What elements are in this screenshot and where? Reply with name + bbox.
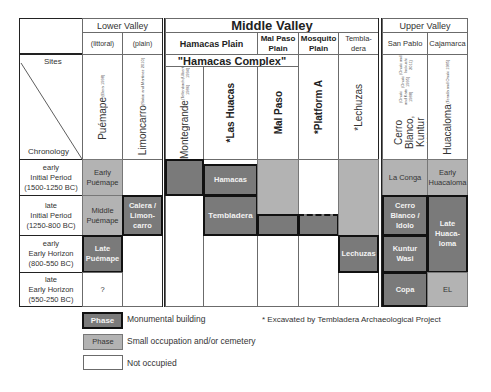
period-range: (800-550 BC) (28, 259, 73, 269)
subregion-hamacas-plain: Hamacas Plain (165, 32, 258, 55)
legend-note-excavated: * Excavated by Tembladera Archaeological… (262, 315, 441, 324)
subregion-plain: (plain) (122, 32, 163, 55)
phase-early-puemape: Early Puémape (82, 159, 123, 196)
legend-swatch-small: Phase (83, 334, 123, 350)
phase-la-conga: La Conga (382, 159, 428, 196)
phase-copa: Copa (382, 272, 428, 307)
sites-chronology-corner: Sites Chronology (19, 54, 83, 160)
legend-label-not-occupied: Not occupied (127, 358, 177, 368)
site-limoncarro: Limoncarro(Sakai and Martínez 2010) (122, 54, 163, 160)
chronology-label: Chronology (28, 147, 69, 156)
phase-middle-puemape: Middle Puémape (82, 195, 123, 236)
site-ref: (Sakai and Martínez 2010) (140, 58, 145, 105)
phase-hamacas: Hamacas (203, 164, 258, 196)
site-ref: (Onuki and Kato 1988) (398, 88, 413, 106)
site-name: Huacaloma (442, 104, 453, 155)
phase-calera-limoncarro: Calera / Limon-carro (122, 195, 163, 236)
phase-platform-a (298, 214, 339, 236)
phase-late-puemape: Late Puémape (82, 235, 123, 273)
period-row-label: lateEarly Horizon(550-250 BC) (19, 272, 83, 307)
subregion-cajamarca: Cajamarca (427, 32, 468, 55)
phase-el: EL (427, 272, 468, 307)
phase-mal-paso-small (257, 159, 299, 215)
period-row-label: earlyEarly Horizon(800-550 BC) (19, 235, 83, 273)
site-name: Puémape (97, 97, 108, 140)
site-ref: (Ulbert 1994) (180, 67, 190, 80)
site-puemape: Puémape(Elera 1998) (82, 54, 123, 160)
phase-puemape-unknown: ? (82, 272, 123, 307)
region-middle-valley: Middle Valley (165, 18, 379, 33)
period-sub: early (43, 163, 59, 173)
site-huacaloma: Huacaloma(Terada and Onuki 1985) (427, 54, 468, 160)
corner-blank (19, 18, 83, 54)
site-name: *Lechuzas (353, 84, 364, 131)
site-name: Montegrande (179, 100, 190, 159)
phase-lechuzas-small (338, 159, 379, 236)
site-name: Limoncarro (137, 106, 148, 156)
site-las-huacas: *Las Huacas (203, 66, 258, 160)
phase-late-huacaloma: Late Huaca-loma (427, 195, 468, 273)
phase-tembladera: Tembladera (203, 195, 258, 236)
period-name: Initial Period (30, 173, 71, 183)
period-range: (1250-800 BC) (26, 221, 75, 231)
phase-lechuzas: Lechuzas (338, 235, 379, 273)
period-row-label: earlyInitial Period(1500-1250 BC) (19, 159, 83, 196)
subregion-littoral: (littoral) (82, 32, 123, 55)
period-row-label: lateInitial Period(1250-800 BC) (19, 195, 83, 236)
site-name: Mal Paso (273, 91, 284, 134)
site-platform-a: *Platform A (298, 54, 339, 160)
period-range: (550-250 BC) (28, 295, 73, 305)
site-name: *Las Huacas (225, 83, 236, 142)
site-ref: (Tellenbach 1986) (180, 80, 190, 100)
phase-cerro-blanco-idolo: Cerro Blanco / Idolo (382, 195, 428, 236)
phase-early-huacaloma: Early Huacaloma (427, 159, 468, 196)
period-sub: early (43, 239, 59, 249)
period-name: Initial Period (30, 211, 71, 221)
legend-swatch-monumental: Phase (82, 312, 123, 329)
period-name: Early Horizon (28, 285, 73, 295)
site-name: *Platform A (313, 80, 324, 134)
period-name: Early Horizon (28, 249, 73, 259)
phase-montegrande-block (165, 159, 204, 196)
legend-label-small: Small occupation and/or cemetery (127, 336, 256, 346)
region-lower-valley: Lower Valley (82, 18, 163, 33)
site-ref: (Elera 1998) (100, 75, 105, 97)
region-upper-valley: Upper Valley (382, 18, 468, 33)
site-ref: (Onuki and Inokuchi 2011) (398, 55, 413, 76)
sites-label: Sites (44, 57, 62, 66)
site-name: Cerro Blanco, Kuntur Wasi (393, 106, 417, 159)
phase-kuntur-wasi: Kuntur Wasi (382, 235, 428, 273)
site-montegrande: Montegrande(Tellenbach 1986)(Ulbert 1994… (165, 66, 204, 160)
corner-diagonal-line (20, 55, 82, 159)
site-ref: (Terada and Onuki 1985) (445, 60, 450, 104)
period-sub: late (45, 275, 57, 285)
subregion-mal-paso-plain: Mal Paso Plain (257, 32, 299, 55)
subregion-tembladera: Tembla-dera (338, 32, 379, 55)
site-lechuzas: *Lechuzas (338, 54, 379, 160)
period-sub: late (45, 201, 57, 211)
legend-label-monumental: Monumental building (127, 314, 205, 324)
site-ref: (Onuki 1995) (400, 76, 410, 88)
subregion-mosquito-plain: Mosquito Plain (298, 32, 339, 55)
period-range: (1500-1250 BC) (24, 183, 77, 193)
legend-swatch-not-occupied (83, 355, 123, 370)
subregion-san-pablo: San Pablo (382, 32, 428, 55)
site-cerro-blanco-kuntur-wasi: Cerro Blanco, Kuntur Wasi(Onuki and Kato… (382, 54, 428, 160)
phase-mal-paso-mono (257, 214, 299, 236)
site-mal-paso: Mal Paso (257, 66, 299, 160)
